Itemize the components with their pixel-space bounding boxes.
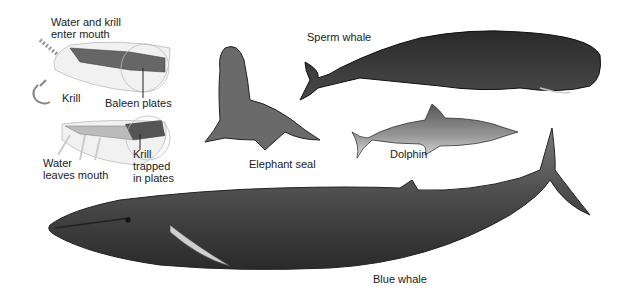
label-elephant-seal: Elephant seal <box>249 158 316 170</box>
label-water-leaves: Water leaves mouth <box>43 157 108 181</box>
baleen-mouth-open-diagram <box>40 40 170 98</box>
label-sperm-whale: Sperm whale <box>307 31 371 43</box>
dolphin-illustration <box>352 104 518 158</box>
label-blue-whale: Blue whale <box>373 273 427 285</box>
label-water-krill-enter: Water and krill enter mouth <box>51 16 121 40</box>
label-baleen-plates: Baleen plates <box>105 97 172 109</box>
krill-icon <box>33 80 50 104</box>
label-krill: Krill <box>62 92 80 104</box>
label-krill-trapped: Krill trapped in plates <box>133 148 174 184</box>
illustration-canvas <box>0 0 628 303</box>
label-dolphin: Dolphin <box>390 148 427 160</box>
